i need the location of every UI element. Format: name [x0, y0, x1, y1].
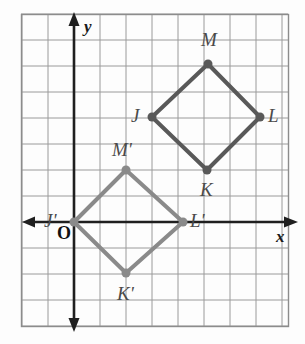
vertex-label-K-prime: K'	[117, 284, 134, 303]
x-axis-arrow-right	[284, 217, 298, 228]
x-axis-label: x	[276, 228, 285, 245]
vertex-label-J: J	[131, 106, 139, 125]
y-axis-label: y	[84, 18, 92, 35]
quadrilateral-JKLM	[152, 64, 260, 170]
vertex-label-K: K	[200, 180, 213, 199]
vertex-dot-M-prime	[122, 166, 131, 175]
grid-lines	[21, 14, 288, 326]
x-axis-arrow-left	[22, 217, 35, 228]
vertex-label-J-prime: J'	[44, 211, 57, 230]
coordinate-plane-svg	[0, 0, 305, 344]
diagram-canvas: JKLMJ'K'L'M' y x O	[0, 0, 305, 344]
vertex-dot-M	[204, 60, 213, 69]
vertex-dot-J	[148, 113, 157, 122]
vertex-dot-K-prime	[122, 269, 131, 278]
vertex-dot-L	[256, 113, 265, 122]
quadrilaterals	[74, 64, 260, 273]
vertex-label-L: L	[268, 106, 279, 125]
vertex-label-M: M	[201, 30, 217, 49]
vertex-label-M-prime: M'	[112, 140, 132, 159]
vertex-dot-L-prime	[179, 218, 188, 227]
vertex-dot-K	[203, 166, 212, 175]
vertex-label-L-prime: L'	[190, 211, 205, 230]
y-axis-arrow-down	[69, 318, 80, 332]
axes	[22, 12, 298, 332]
origin-label: O	[57, 224, 71, 242]
